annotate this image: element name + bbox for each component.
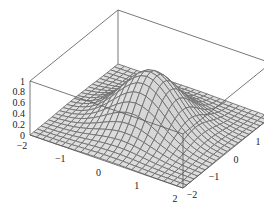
z-tick-label: 0.2 [13,119,26,130]
z-tick-label: 0.6 [13,97,26,108]
z-tick-label: 0.4 [13,108,26,119]
z-tick-label: 0 [20,130,25,141]
y-tick-label: 0 [234,154,239,165]
z-tick-label: 0.8 [13,86,26,97]
surface-mesh [30,64,264,188]
y-tick-label: 1 [256,136,261,147]
x-tick-label: −1 [55,153,66,164]
surface-plot-3d: 00.20.40.60.81−2−1012−2−1012 [0,0,264,213]
x-tick-label: 1 [134,180,139,191]
x-tick-label: 0 [96,167,101,178]
y-tick-label: −2 [187,189,198,200]
x-tick-label: −2 [17,140,28,151]
z-tick-label: 1 [20,76,25,87]
x-tick-label: 2 [173,193,178,204]
y-tick-label: −1 [209,171,220,182]
